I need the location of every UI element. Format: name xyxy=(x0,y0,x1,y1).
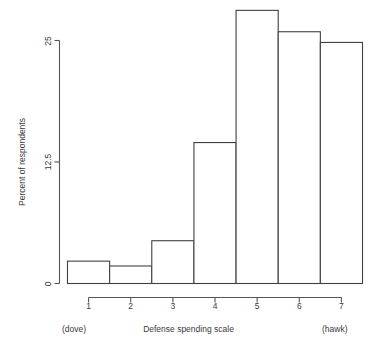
histogram-bar xyxy=(320,42,362,283)
x-tick-label-4: 4 xyxy=(195,301,235,311)
x-tick-label-1: 1 xyxy=(69,301,109,311)
histogram-bar xyxy=(110,266,152,284)
x-tick-label-7: 7 xyxy=(321,301,361,311)
histogram-figure: Percent of respondents 0 12.5 25 1 2 3 4… xyxy=(0,0,377,352)
x-tick-label-3: 3 xyxy=(153,301,193,311)
plot-canvas xyxy=(0,0,377,352)
histogram-bar xyxy=(152,241,194,284)
y-tick-label-25: 25 xyxy=(43,36,53,45)
y-axis xyxy=(55,41,60,284)
histogram-bar xyxy=(278,32,320,284)
x-axis-title: Defense spending scale xyxy=(0,324,377,334)
y-tick-label-0: 0 xyxy=(43,281,53,286)
histogram-bar xyxy=(194,143,236,284)
x-tick-label-5: 5 xyxy=(237,301,277,311)
y-axis-title: Percent of respondents xyxy=(17,118,27,206)
hawk-annotation: (hawk) xyxy=(322,324,348,334)
y-tick-label-12-5: 12.5 xyxy=(43,154,53,171)
histogram-bar xyxy=(68,261,110,283)
x-tick-label-6: 6 xyxy=(279,301,319,311)
x-tick-label-2: 2 xyxy=(111,301,151,311)
histogram-bar xyxy=(236,10,278,283)
bars-group xyxy=(68,10,363,283)
